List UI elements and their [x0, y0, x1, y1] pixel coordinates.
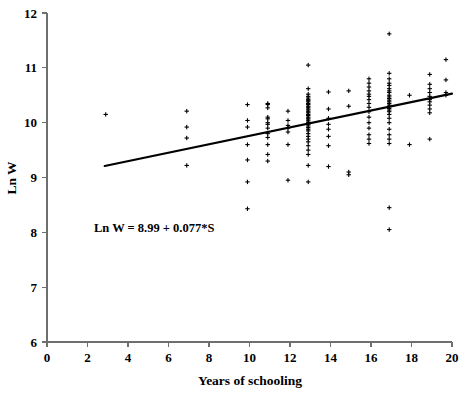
y-tick-label: 9	[31, 170, 38, 185]
data-point	[428, 82, 432, 86]
data-point	[367, 137, 371, 141]
data-point	[387, 127, 391, 131]
data-point	[347, 173, 351, 177]
data-point	[185, 109, 189, 113]
data-point	[387, 227, 391, 231]
x-tick-label: 16	[365, 350, 379, 365]
data-point	[245, 118, 249, 122]
data-point	[387, 77, 391, 81]
data-point	[326, 127, 330, 131]
data-point	[367, 81, 371, 85]
data-point	[387, 71, 391, 75]
data-point	[444, 78, 448, 82]
y-tick-label: 12	[24, 6, 37, 21]
data-point	[367, 126, 371, 130]
data-point	[407, 93, 411, 97]
data-points-group	[104, 32, 449, 232]
y-tick-label: 6	[31, 335, 38, 350]
data-point	[407, 142, 411, 146]
x-tick-label: 20	[446, 350, 459, 365]
data-point	[428, 103, 432, 107]
x-tick-label: 6	[165, 350, 172, 365]
data-point	[367, 120, 371, 124]
data-point	[266, 152, 270, 156]
x-tick-group: 02468101214161820	[44, 342, 459, 365]
data-point	[266, 126, 270, 130]
data-point	[306, 180, 310, 184]
regression-equation-label: Ln W = 8.99 + 0.077*S	[94, 221, 214, 235]
x-tick-label: 14	[324, 350, 338, 365]
y-tick-label: 7	[31, 280, 38, 295]
data-point	[367, 105, 371, 109]
data-point	[444, 57, 448, 61]
data-point	[245, 180, 249, 184]
data-point	[326, 107, 330, 111]
data-point	[428, 111, 432, 115]
data-point	[428, 137, 432, 141]
data-point	[367, 115, 371, 119]
data-point	[286, 142, 290, 146]
data-point	[306, 140, 310, 144]
y-tick-label: 11	[25, 60, 37, 75]
data-point	[347, 89, 351, 93]
y-axis-title: Ln W	[4, 161, 19, 195]
data-point	[326, 134, 330, 138]
data-point	[367, 133, 371, 137]
data-point	[428, 86, 432, 90]
data-point	[104, 112, 108, 116]
data-point	[387, 120, 391, 124]
data-point	[286, 130, 290, 134]
data-point	[428, 90, 432, 94]
x-tick-label: 12	[284, 350, 297, 365]
data-point	[266, 135, 270, 139]
data-point	[367, 101, 371, 105]
data-point	[306, 148, 310, 152]
data-point	[387, 141, 391, 145]
scatter-plot-figure: 6789101112 02468101214161820 Years of sc…	[0, 0, 468, 396]
data-point	[266, 106, 270, 110]
data-point	[326, 122, 330, 126]
data-point	[326, 143, 330, 147]
data-point	[245, 125, 249, 129]
data-point	[347, 104, 351, 108]
x-tick-label: 2	[84, 350, 91, 365]
data-point	[367, 97, 371, 101]
data-point	[266, 142, 270, 146]
data-point	[306, 143, 310, 147]
x-tick-label: 18	[405, 350, 419, 365]
data-point	[245, 142, 249, 146]
data-point	[185, 136, 189, 140]
data-point	[185, 163, 189, 167]
data-point	[326, 164, 330, 168]
data-point	[245, 102, 249, 106]
x-tick-label: 8	[206, 350, 213, 365]
y-tick-label: 8	[31, 225, 38, 240]
data-point	[387, 133, 391, 137]
data-point	[428, 107, 432, 111]
data-point	[367, 77, 371, 81]
data-point	[387, 112, 391, 116]
data-point	[266, 159, 270, 163]
data-point	[326, 90, 330, 94]
data-point	[245, 207, 249, 211]
data-point	[306, 152, 310, 156]
data-point	[428, 72, 432, 76]
y-tick-group: 6789101112	[24, 6, 47, 350]
data-point	[286, 109, 290, 113]
data-point	[387, 137, 391, 141]
data-point	[306, 163, 310, 167]
data-point	[387, 32, 391, 36]
x-axis-title: Years of schooling	[198, 373, 302, 388]
plot-canvas: 6789101112 02468101214161820 Years of sc…	[0, 0, 468, 396]
regression-line	[105, 94, 452, 166]
data-point	[367, 141, 371, 145]
data-point	[245, 158, 249, 162]
data-point	[367, 85, 371, 89]
data-point	[387, 205, 391, 209]
data-point	[306, 63, 310, 67]
x-tick-label: 4	[125, 350, 132, 365]
data-point	[387, 116, 391, 120]
x-tick-label: 10	[243, 350, 256, 365]
data-point	[286, 178, 290, 182]
data-point	[286, 118, 290, 122]
